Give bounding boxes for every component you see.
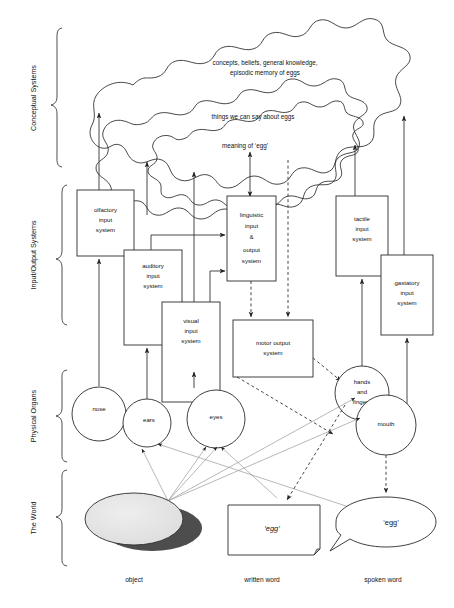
arrow-auditory-to-linguistic (151, 235, 225, 250)
level-braces (51, 28, 67, 566)
blob-outer-label-line1: concepts, beliefs, general knowledge, (212, 59, 317, 67)
box-visual-line3: system (181, 337, 200, 344)
spoken-word-label: ‘egg’ (383, 518, 399, 527)
box-olfactory-line1: olfactory (94, 206, 118, 213)
box-tactile-line1: tactile (354, 215, 371, 222)
cognitive-model-diagram: Conceptual Systems Input/Output Systems … (0, 0, 454, 608)
caption-written-word: written word (243, 576, 280, 583)
blob-middle-label: things we can say about eggs (212, 113, 295, 121)
written-word-label: ‘egg’ (264, 524, 280, 533)
level-label-conceptual: Conceptual Systems (29, 65, 38, 131)
level-label-world: The World (29, 501, 38, 534)
box-auditory-line2: input (146, 272, 160, 279)
caption-object: object (125, 576, 143, 584)
box-gastatory-line3: system (397, 299, 416, 306)
box-visual-line1: visual (183, 317, 199, 324)
organ-hands-line1: hands (354, 378, 371, 385)
egg-body (85, 493, 183, 545)
organ-nose-label: nose (92, 405, 106, 412)
box-tactile-line2: input (355, 225, 369, 232)
blob-inner-label: meaning of ‘egg’ (222, 142, 269, 150)
organ-ears-label: ears (143, 416, 155, 423)
line-object-to-ears (142, 449, 168, 501)
brace-world (56, 470, 67, 566)
organ-hands-line2: and (357, 388, 367, 395)
box-linguistic-line2: input (245, 222, 259, 229)
blob-outer-label-line2: episodic memory of eggs (230, 69, 300, 77)
box-auditory-line1: auditory (142, 262, 165, 269)
box-linguistic-line3: & (249, 233, 253, 240)
box-visual-line2: input (184, 327, 198, 334)
physical-organs: nose ears eyes hands and fingers mouth (72, 366, 416, 455)
bottom-captions: object written word spoken word (125, 576, 402, 584)
brace-organs (56, 370, 67, 462)
line-writtenword-to-eyes (221, 447, 277, 498)
level-label-organs: Physical Organs (29, 389, 38, 442)
organ-ears[interactable] (123, 399, 171, 447)
caption-spoken-word: spoken word (364, 576, 402, 584)
box-linguistic-line5: system (242, 257, 261, 264)
box-olfactory[interactable] (77, 190, 134, 256)
brace-conceptual (51, 28, 62, 167)
arrow-visual-to-linguistic (210, 271, 225, 302)
box-auditory-line3: system (143, 282, 162, 289)
organ-mouth-label: mouth (378, 420, 395, 427)
line-spokenword-to-ears (158, 444, 352, 508)
level-label-group: Conceptual Systems Input/Output Systems … (29, 65, 38, 535)
world-object[interactable] (85, 493, 202, 551)
arrow-motor-to-hands (313, 358, 341, 381)
level-label-io: Input/Output Systems (29, 220, 38, 290)
box-tactile-line3: system (352, 235, 371, 242)
world-perception-lines (142, 398, 360, 508)
io-boxes: olfactory input system auditory input sy… (77, 190, 433, 402)
box-gastatory-line1: gastatory (394, 279, 420, 286)
box-olfactory-line3: system (96, 226, 115, 233)
organ-eyes-label: eyes (210, 413, 223, 420)
arrow-motor-to-mouth (237, 377, 333, 434)
box-gastatory-line2: input (400, 289, 414, 296)
box-olfactory-line2: input (99, 216, 113, 223)
brace-io (56, 185, 67, 325)
box-linguistic-line1: linguistic (240, 211, 263, 218)
world-written-word[interactable]: ‘egg’ (228, 505, 320, 555)
world-spoken-word[interactable]: ‘egg’ (330, 497, 436, 551)
box-motor-line2: system (263, 349, 282, 356)
organ-nose[interactable] (72, 387, 126, 441)
box-motor-line1: motor output (256, 339, 291, 346)
diagram-canvas: Conceptual Systems Input/Output Systems … (0, 0, 454, 608)
box-linguistic-line4: output (243, 246, 260, 253)
